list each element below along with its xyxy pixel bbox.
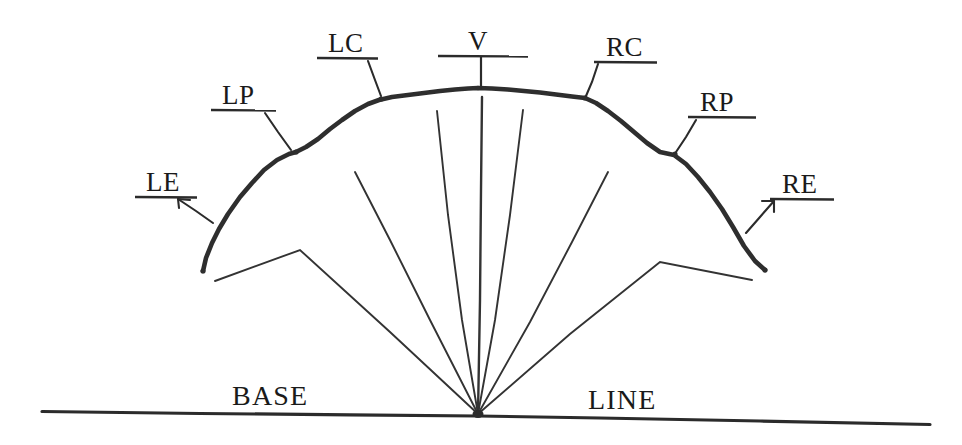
label-rp-group: RP [676, 87, 756, 152]
vertex-point [473, 410, 484, 418]
label-v-group: V [438, 26, 528, 88]
arc-vertex-lc [378, 96, 383, 101]
label-le: LE [146, 167, 180, 197]
label-lp: LP [222, 80, 255, 110]
label-lc-leader [368, 61, 381, 96]
label-rc-leader [586, 64, 598, 96]
fan-arc-diagram: LE LP LC V RC [0, 0, 962, 445]
arc-vertex-re [762, 267, 767, 272]
label-lp-underline [211, 110, 276, 111]
radial-line-rp [478, 172, 608, 414]
label-re-leader [746, 201, 774, 233]
radial-line-lp [355, 172, 478, 414]
diagram-canvas: LE LP LC V RC [0, 0, 962, 445]
arc-vertex-v [476, 86, 480, 90]
label-lc-group: LC [317, 28, 381, 96]
label-le-group: LE [135, 167, 213, 223]
radial-lines-group [215, 97, 752, 414]
label-re-underline [770, 199, 834, 200]
arc-vertex-le [200, 268, 205, 273]
label-rp-leader [676, 120, 696, 152]
label-v: V [468, 26, 488, 56]
label-rc-group: RC [586, 32, 657, 96]
caption-line: LINE [588, 384, 657, 415]
caption-base: BASE [232, 380, 308, 411]
radial-line-lc [437, 111, 478, 414]
label-lp-leader [265, 113, 291, 150]
arc-vertex-marks [200, 86, 767, 274]
base-line [42, 412, 930, 425]
label-rc: RC [606, 32, 643, 62]
label-lp-group: LP [211, 80, 291, 150]
label-le-underline [135, 197, 197, 198]
label-re: RE [782, 169, 818, 199]
label-lc-underline [317, 58, 378, 59]
label-lc: LC [328, 28, 364, 58]
label-re-group: RE [746, 169, 834, 233]
outer-arc [203, 88, 765, 271]
label-v-underline [438, 56, 528, 57]
label-rp: RP [700, 87, 734, 117]
label-le-leader [178, 199, 213, 223]
radial-line-v [478, 97, 482, 414]
label-rp-underline [688, 117, 756, 118]
label-rc-underline [594, 62, 657, 63]
radial-line-rc [478, 110, 523, 414]
arc-vertex-lp [293, 149, 298, 154]
